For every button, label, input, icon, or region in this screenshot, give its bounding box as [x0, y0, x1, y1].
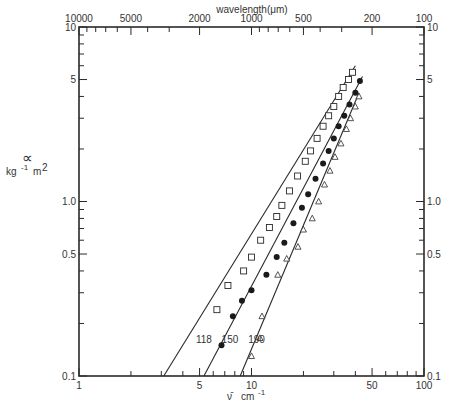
circle-marker — [249, 287, 255, 293]
y-axis-title-kg-exponent: -1 — [21, 163, 29, 172]
square-marker — [249, 254, 255, 260]
y-tick-label-right: 1.0 — [427, 196, 441, 207]
circle-marker — [352, 90, 358, 96]
series-118 — [214, 69, 356, 312]
y-tick-label-right: 10 — [427, 22, 439, 33]
triangle-marker — [316, 198, 322, 204]
circle-marker — [313, 176, 319, 182]
x2-tick-label: 500 — [295, 13, 312, 24]
plot-border — [79, 27, 424, 376]
y-tick-label-left: 10 — [65, 22, 77, 33]
circle-marker — [274, 254, 280, 260]
y-tick-label-right: 0.1 — [427, 371, 441, 382]
square-marker — [336, 93, 342, 99]
triangle-marker — [275, 272, 281, 278]
square-marker — [320, 123, 326, 129]
top-axis-title: wavelength(μm) — [215, 4, 287, 15]
square-marker — [279, 202, 285, 208]
square-marker — [286, 188, 292, 194]
x-tick-label: 5 — [197, 380, 203, 391]
circle-marker — [281, 240, 287, 246]
circle-marker — [299, 205, 305, 211]
fit-lines — [164, 66, 363, 376]
x2-tick-label: 5000 — [120, 13, 143, 24]
series-190 — [249, 93, 363, 358]
x-tick-label: 1 — [76, 380, 82, 391]
x-tick-label: 50 — [367, 380, 379, 391]
y-axis-title-m: m — [33, 166, 41, 177]
y-tick-label-right: 5 — [427, 74, 433, 85]
square-marker — [214, 307, 220, 313]
triangle-marker — [284, 256, 290, 262]
fit-line-150 — [204, 77, 363, 376]
triangle-marker — [309, 215, 315, 221]
circle-marker — [290, 220, 296, 226]
y-axis-title-kg: kg — [6, 166, 17, 177]
x-tick-label: 10 — [246, 380, 258, 391]
x-axis-title-symbol: ν̄ — [227, 391, 234, 402]
y-tick-label-left: 0.5 — [62, 249, 76, 260]
square-marker — [258, 237, 264, 243]
series-label-118: 118 — [196, 334, 212, 345]
series-label-190: 190 — [248, 334, 265, 345]
circle-marker — [326, 148, 332, 154]
circle-marker — [357, 78, 363, 84]
square-marker — [340, 85, 346, 91]
series-label-150: 150 — [222, 334, 239, 345]
square-marker — [349, 69, 355, 75]
x2-tick-label: 2000 — [188, 13, 211, 24]
y-tick-label-left: 0.1 — [62, 371, 76, 382]
circle-marker — [230, 313, 236, 319]
y-tick-label-right: 0.5 — [427, 249, 441, 260]
x-axis-title-unit: cm — [241, 391, 254, 402]
triangle-marker — [259, 313, 265, 319]
square-marker — [302, 158, 308, 164]
x-axis-title-exponent: -1 — [258, 388, 266, 397]
log-log-chart: 151050100100005000200010005002001000.10.… — [0, 0, 449, 406]
square-marker — [274, 214, 280, 220]
square-marker — [266, 224, 272, 230]
square-marker — [308, 148, 314, 154]
series-annotations: 118150190 — [196, 334, 265, 345]
circle-marker — [320, 161, 326, 167]
plot-frame — [79, 27, 424, 376]
square-marker — [331, 104, 337, 110]
circle-marker — [347, 101, 353, 107]
square-marker — [314, 135, 320, 141]
circle-marker — [305, 191, 311, 197]
circle-marker — [341, 113, 347, 119]
square-marker — [225, 283, 231, 289]
circle-marker — [336, 123, 342, 129]
y-tick-label-left: 5 — [70, 74, 76, 85]
square-marker — [241, 268, 247, 274]
y-tick-label-left: 1.0 — [62, 196, 76, 207]
x-axis-title: ν̄ cm -1 — [227, 388, 266, 402]
square-marker — [345, 77, 351, 83]
circle-marker — [263, 272, 269, 278]
square-marker — [295, 173, 301, 179]
x-tick-label: 100 — [416, 380, 433, 391]
circle-marker — [239, 298, 245, 304]
circle-marker — [331, 135, 337, 141]
triangle-marker — [322, 181, 328, 187]
square-marker — [326, 113, 332, 119]
y-axis-title: ∝ kg -1 m 2 — [6, 149, 48, 177]
y-axis-title-m-exponent: 2 — [42, 162, 48, 173]
axis-ticks — [79, 27, 424, 376]
x2-tick-label: 200 — [364, 13, 381, 24]
